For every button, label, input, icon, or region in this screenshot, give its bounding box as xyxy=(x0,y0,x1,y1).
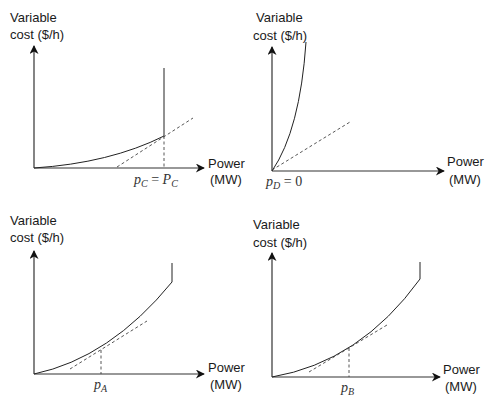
cost-curve xyxy=(34,136,164,168)
y-axis-label-line2: cost ($/h) xyxy=(10,27,64,42)
y-axis-label-line2: cost ($/h) xyxy=(253,235,307,250)
y-axis-label-line1: Variable xyxy=(256,10,303,25)
dispatch-point-label: pC = PC xyxy=(133,172,178,189)
x-axis-label-line1: Power xyxy=(208,156,246,171)
y-axis-label-line2: cost ($/h) xyxy=(10,230,64,245)
x-axis-label-line2: (MW) xyxy=(210,377,242,392)
x-axis-label-line1: Power xyxy=(208,360,246,375)
cost-curve xyxy=(272,279,420,377)
marginal-cost-tangent-line xyxy=(309,325,387,372)
y-axis-label-line2: cost ($/h) xyxy=(253,28,307,43)
x-axis-label-line2: (MW) xyxy=(449,172,481,187)
dispatch-point-label: pB xyxy=(340,380,354,397)
cost-curve xyxy=(272,42,306,171)
y-axis-label-line1: Variable xyxy=(253,217,300,232)
y-axis-label-line1: Variable xyxy=(10,10,57,25)
dispatch-point-label: pA xyxy=(93,377,108,394)
x-axis-label-line1: Power xyxy=(443,362,481,377)
marginal-cost-tangent-line xyxy=(70,321,147,369)
x-axis-label-line1: Power xyxy=(447,154,485,169)
marginal-cost-dashed-line xyxy=(272,122,350,170)
cost-curve xyxy=(34,282,172,374)
panel-b: Variable cost ($/h) Power (MW) pB xyxy=(253,217,481,397)
marginal-cost-dashed-line xyxy=(117,118,193,167)
panel-c: Variable cost ($/h) Power (MW) pC = PC xyxy=(10,10,246,189)
x-axis-label-line2: (MW) xyxy=(210,172,242,187)
panel-d: Variable cost ($/h) Power (MW) pD = 0 xyxy=(253,10,485,191)
economic-dispatch-diagram: Variable cost ($/h) Power (MW) pC = PC V… xyxy=(0,0,486,401)
x-axis-label-line2: (MW) xyxy=(445,379,477,394)
dispatch-point-label: pD = 0 xyxy=(265,174,302,191)
y-axis-label-line1: Variable xyxy=(10,213,57,228)
panel-a: Variable cost ($/h) Power (MW) pA xyxy=(10,213,246,394)
